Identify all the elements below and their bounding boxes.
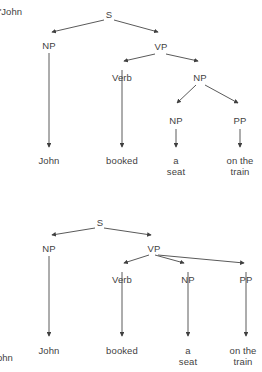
tree-edges-canvas bbox=[0, 0, 262, 372]
tree-top-leaf-john: John bbox=[38, 155, 59, 166]
tree-top-leaf-on-the-train: on the train bbox=[226, 155, 253, 177]
tree-bottom-leaf-on-the-train: on the train bbox=[229, 345, 256, 367]
tree-top-node-np-object: NP bbox=[193, 73, 206, 84]
tree-top-node-np-subject: NP bbox=[42, 41, 55, 52]
parse-tree-figure: "John S NP VP Verb NP NP PP John booked … bbox=[0, 0, 262, 372]
tree-top-node-np-inner: NP bbox=[169, 116, 182, 127]
tree-top-leaf-booked: booked bbox=[106, 155, 138, 166]
tree-bottom-leaf-on-the: on the bbox=[229, 345, 256, 356]
tree-bottom-node-np-object: NP bbox=[181, 275, 194, 286]
tree-bottom-node-pp: PP bbox=[240, 275, 253, 286]
tree-top-node-s: S bbox=[106, 10, 112, 21]
tree-bottom-node-np-subject: NP bbox=[42, 244, 55, 255]
tree-top-leaf-seat: seat bbox=[167, 166, 185, 177]
tree-bottom-node-vp: VP bbox=[148, 244, 161, 255]
tree-top-edges bbox=[49, 20, 240, 147]
tree-top-node-verb: Verb bbox=[112, 73, 132, 84]
tree-bottom-leaf-john: John bbox=[38, 345, 59, 356]
tree-top-node-pp: PP bbox=[234, 116, 247, 127]
tree-bottom-leaf-train: train bbox=[229, 356, 256, 367]
tree-bottom-node-verb: Verb bbox=[112, 275, 132, 286]
edge-fragment-top-left: "John bbox=[0, 6, 22, 17]
tree-bottom-leaf-a-seat: a seat bbox=[179, 345, 197, 367]
tree-bottom-leaf-a: a bbox=[185, 345, 190, 356]
tree-top-leaf-a-seat: a seat bbox=[167, 155, 185, 177]
tree-bottom-leaf-seat: seat bbox=[179, 356, 197, 367]
tree-bottom-node-s: S bbox=[97, 218, 103, 229]
tree-top-leaf-a: a bbox=[173, 155, 178, 166]
tree-top-leaf-train: train bbox=[226, 166, 253, 177]
tree-top-leaf-on-the: on the bbox=[226, 155, 253, 166]
edge-fragment-bottom-left: ohn bbox=[0, 352, 13, 363]
tree-top-node-vp: VP bbox=[155, 42, 168, 53]
tree-bottom-leaf-booked: booked bbox=[106, 345, 138, 356]
